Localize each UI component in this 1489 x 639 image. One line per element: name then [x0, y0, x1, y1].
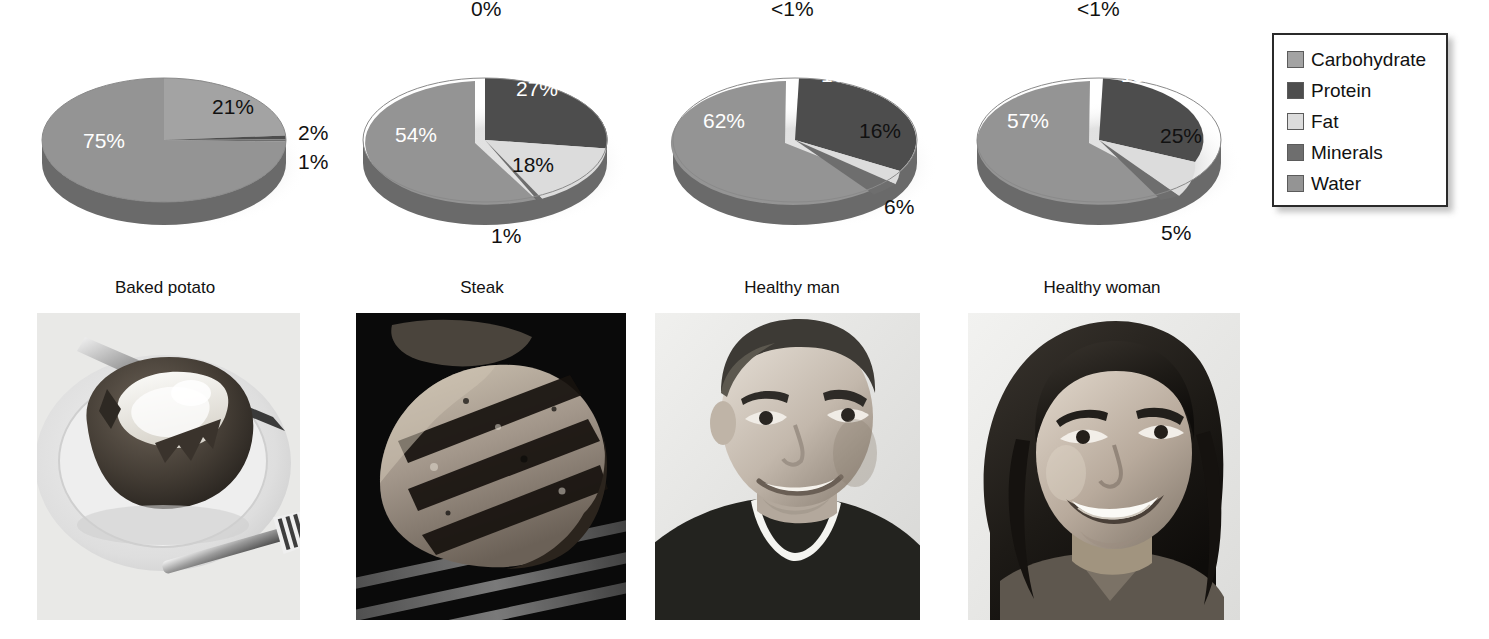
- pie-chart-healthy-man: <1% 16% 16% 6% 62%: [655, 0, 985, 250]
- slice-label-carbohydrate: <1%: [1077, 0, 1120, 19]
- slice-label-protein: 2%: [298, 122, 328, 143]
- pie-panel-healthy-man: <1% 16% 16% 6% 62% Healthy man: [655, 0, 985, 300]
- legend-label-protein: Protein: [1311, 80, 1371, 102]
- slice-label-fat: 18%: [512, 154, 554, 175]
- panel-caption-steak: Steak: [317, 278, 647, 298]
- pie-chart-steak: 0% 27% 18% 1% 54%: [345, 0, 675, 250]
- legend-label-carbohydrate: Carbohydrate: [1311, 49, 1426, 71]
- slice-label-minerals: 6%: [884, 196, 914, 217]
- legend-label-minerals: Minerals: [1311, 142, 1383, 164]
- slice-label-minerals: 5%: [1161, 222, 1191, 243]
- slice-label-water: 75%: [83, 130, 125, 151]
- pie-panel-baked-potato: 21% 2% 1% 75% Baked potato: [30, 0, 360, 300]
- panel-caption-baked-potato: Baked potato: [0, 278, 330, 298]
- pie-chart-baked-potato: 21% 2% 1% 75%: [30, 0, 360, 250]
- pie-panel-healthy-woman: <1% 13% 25% 5% 57% Healthy woman: [965, 0, 1295, 300]
- legend-label-fat: Fat: [1311, 111, 1338, 133]
- legend-list: Carbohydrate Protein Fat Minerals Water: [1287, 44, 1426, 199]
- legend-item-protein[interactable]: Protein: [1287, 75, 1426, 106]
- legend-swatch-minerals-icon: [1287, 144, 1304, 161]
- legend-swatch-carbohydrate-icon: [1287, 51, 1304, 68]
- legend-item-carbohydrate[interactable]: Carbohydrate: [1287, 44, 1426, 75]
- slice-label-minerals: 1%: [491, 225, 521, 246]
- slice-label-carbohydrate: 21%: [212, 96, 254, 117]
- legend-swatch-water-icon: [1287, 175, 1304, 192]
- nutrient-composition-figure: 21% 2% 1% 75% Baked potato: [0, 0, 1489, 639]
- photo-steak: [356, 313, 626, 620]
- slice-label-carbohydrate: <1%: [771, 0, 814, 19]
- legend-item-minerals[interactable]: Minerals: [1287, 137, 1426, 168]
- slice-label-fat: 16%: [859, 120, 901, 141]
- chart-legend: Carbohydrate Protein Fat Minerals Water: [1272, 33, 1448, 207]
- slice-label-water: 57%: [1007, 110, 1049, 131]
- slice-label-carbohydrate: 0%: [471, 0, 501, 19]
- photo-healthy-man: [655, 313, 920, 620]
- pie-panel-steak: 0% 27% 18% 1% 54% Steak: [345, 0, 675, 300]
- pie-chart-healthy-woman: <1% 13% 25% 5% 57%: [965, 0, 1295, 250]
- slice-label-minerals: 1%: [298, 151, 328, 172]
- legend-item-water[interactable]: Water: [1287, 168, 1426, 199]
- legend-swatch-protein-icon: [1287, 82, 1304, 99]
- slice-label-protein: 16%: [821, 64, 863, 85]
- photo-healthy-woman: [968, 313, 1240, 620]
- slice-label-water: 62%: [703, 110, 745, 131]
- slice-label-protein: 27%: [516, 78, 558, 99]
- slice-label-protein: 13%: [1121, 64, 1163, 85]
- slice-label-water: 54%: [395, 124, 437, 145]
- photo-baked-potato: [37, 313, 300, 620]
- legend-swatch-fat-icon: [1287, 113, 1304, 130]
- panel-caption-healthy-woman: Healthy woman: [937, 278, 1267, 298]
- slice-label-fat: 25%: [1160, 125, 1202, 146]
- legend-label-water: Water: [1311, 173, 1361, 195]
- legend-item-fat[interactable]: Fat: [1287, 106, 1426, 137]
- panel-caption-healthy-man: Healthy man: [627, 278, 957, 298]
